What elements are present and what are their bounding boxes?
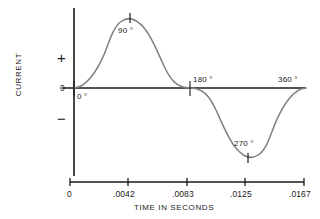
y-axis-title: CURRENT	[14, 45, 23, 105]
time-tick-label-3: .0125	[230, 190, 252, 199]
time-tick-label-1: .0042	[113, 190, 135, 199]
phase-label-270deg: 270 °	[234, 140, 254, 148]
phase-label-180deg: 180 °	[193, 76, 213, 84]
phase-label-0deg: 0 °	[77, 93, 87, 101]
time-tick-label-4: .0167	[289, 190, 311, 199]
plot-canvas	[0, 0, 320, 219]
time-tick-label-0: 0	[67, 190, 72, 199]
sine-wave-figure: CURRENT + 0 − 0 ° 90 ° 180 ° 270 ° 360 °…	[0, 0, 320, 219]
phase-label-90deg: 90 °	[118, 27, 133, 35]
y-axis-zero-mark: 0	[60, 84, 65, 93]
x-axis-title: TIME IN SECONDS	[134, 204, 214, 212]
phase-label-360deg: 360 °	[278, 76, 298, 84]
y-axis-positive-mark: +	[57, 50, 66, 65]
time-tick-label-2: .0083	[172, 190, 194, 199]
y-axis-negative-mark: −	[57, 111, 66, 126]
